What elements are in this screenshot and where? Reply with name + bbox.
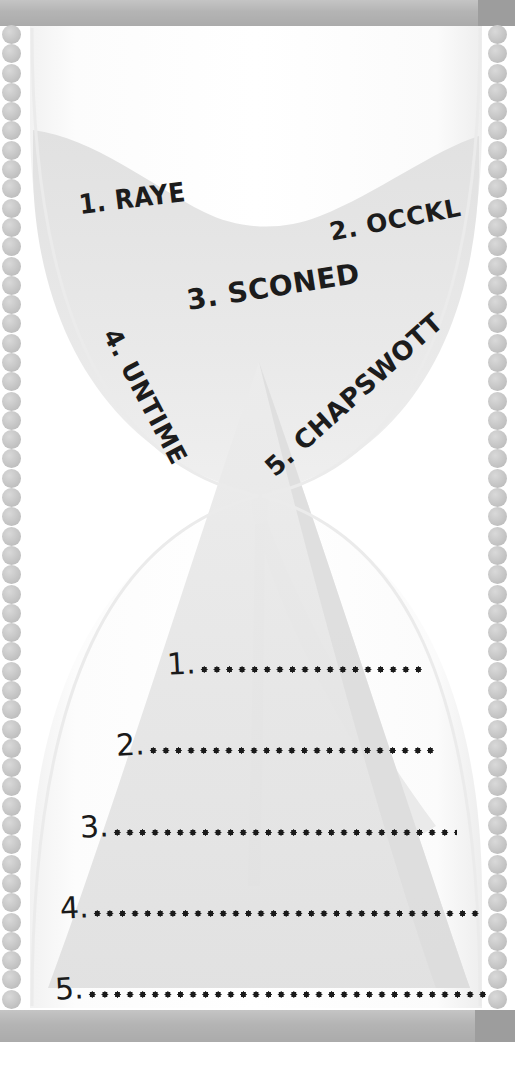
bead xyxy=(488,121,507,140)
bead-chain-left xyxy=(1,26,23,1010)
bead xyxy=(488,507,507,526)
bead xyxy=(2,430,21,449)
bead xyxy=(2,141,21,160)
answer-line-2[interactable]: 2. xyxy=(116,720,439,760)
bead xyxy=(488,488,507,507)
bead xyxy=(2,951,21,970)
bead xyxy=(488,816,507,835)
bead xyxy=(2,623,21,642)
bead xyxy=(2,835,21,854)
bead xyxy=(488,314,507,333)
bead xyxy=(2,816,21,835)
bead xyxy=(2,276,21,295)
bead xyxy=(488,199,507,218)
bead xyxy=(488,932,507,951)
answer-dots-4[interactable] xyxy=(91,901,483,923)
answer-dots-5[interactable] xyxy=(86,982,486,1004)
hourglass-svg xyxy=(24,26,488,1010)
answer-dots-1[interactable] xyxy=(198,657,426,679)
bead xyxy=(488,83,507,102)
answer-number-5: 5. xyxy=(54,973,84,1004)
bead xyxy=(2,44,21,63)
bead xyxy=(488,392,507,411)
bead xyxy=(2,334,21,353)
bead xyxy=(2,257,21,276)
bead xyxy=(2,739,21,758)
answer-dots-3[interactable] xyxy=(111,820,457,842)
bead xyxy=(488,585,507,604)
bead xyxy=(488,662,507,681)
bead xyxy=(488,295,507,314)
bead xyxy=(488,64,507,83)
bead xyxy=(488,25,507,44)
bead xyxy=(488,449,507,468)
bead xyxy=(2,102,21,121)
bead xyxy=(2,604,21,623)
bead xyxy=(488,372,507,391)
bead xyxy=(488,604,507,623)
bead xyxy=(488,160,507,179)
bead xyxy=(2,353,21,372)
bead xyxy=(488,951,507,970)
bead xyxy=(2,179,21,198)
cap-sheen xyxy=(0,0,515,26)
bead xyxy=(2,83,21,102)
bead xyxy=(2,932,21,951)
bead xyxy=(2,797,21,816)
bead xyxy=(2,295,21,314)
bead xyxy=(2,199,21,218)
bead xyxy=(2,546,21,565)
bead xyxy=(2,758,21,777)
bead-chain-right xyxy=(487,26,509,1010)
bead xyxy=(2,855,21,874)
bead xyxy=(488,913,507,932)
bead xyxy=(2,681,21,700)
bead xyxy=(488,44,507,63)
bead xyxy=(2,25,21,44)
hourglass-top-cap xyxy=(0,0,515,26)
answer-line-5[interactable]: 5. xyxy=(55,964,486,1004)
bead xyxy=(2,777,21,796)
answer-number-1: 1. xyxy=(166,648,196,679)
bead xyxy=(488,777,507,796)
bead xyxy=(488,469,507,488)
bead xyxy=(488,334,507,353)
bead xyxy=(2,585,21,604)
bead xyxy=(488,353,507,372)
bead xyxy=(488,855,507,874)
bead xyxy=(488,237,507,256)
answer-line-3[interactable]: 3. xyxy=(80,802,457,842)
answer-number-2: 2. xyxy=(115,729,145,760)
bead xyxy=(488,411,507,430)
bead xyxy=(488,623,507,642)
bead xyxy=(2,160,21,179)
answer-dots-2[interactable] xyxy=(147,738,439,760)
bead xyxy=(488,565,507,584)
cap-dark-end xyxy=(478,0,515,26)
bead xyxy=(488,990,507,1009)
hourglass-bottom-cap xyxy=(0,1010,515,1042)
bead xyxy=(2,469,21,488)
bead xyxy=(2,411,21,430)
bead xyxy=(2,565,21,584)
bead xyxy=(2,527,21,546)
bead xyxy=(2,662,21,681)
answer-line-4[interactable]: 4. xyxy=(60,883,483,923)
answer-number-3: 3. xyxy=(79,811,109,842)
cap-sheen xyxy=(0,1010,515,1042)
bead xyxy=(488,681,507,700)
bead xyxy=(488,758,507,777)
bead xyxy=(2,720,21,739)
bead xyxy=(488,797,507,816)
answer-line-1[interactable]: 1. xyxy=(167,639,426,679)
bead xyxy=(2,893,21,912)
bead xyxy=(488,700,507,719)
bead xyxy=(488,257,507,276)
bead xyxy=(488,179,507,198)
bead xyxy=(488,642,507,661)
bead xyxy=(2,449,21,468)
bead xyxy=(2,507,21,526)
hourglass-worksheet: 1. RAYE 2. OCCKL 3. SCONED 4. UNTIME 5. … xyxy=(0,0,515,1071)
bead xyxy=(488,739,507,758)
answer-number-4: 4. xyxy=(59,892,89,923)
